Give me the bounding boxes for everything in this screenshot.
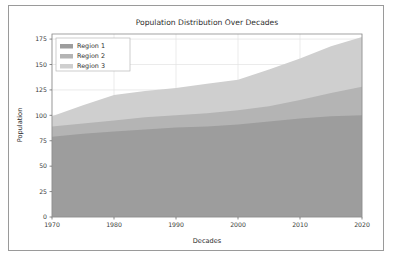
legend-swatch (60, 64, 73, 69)
y-axis-title: Population (16, 108, 24, 143)
legend-swatch (60, 44, 73, 49)
x-tick-label: 1980 (106, 221, 122, 228)
x-tick-label: 2000 (230, 221, 246, 228)
x-axis-tick-labels: 197019801990200020102020 (44, 221, 370, 228)
x-axis-title: Decades (193, 237, 222, 245)
y-tick-label: 25 (39, 188, 47, 195)
x-tick-label: 2010 (292, 221, 308, 228)
y-tick-label: 0 (43, 213, 47, 220)
y-tick-label: 100 (35, 112, 47, 119)
legend-label: Region 3 (77, 62, 105, 70)
x-tick-label: 1970 (44, 221, 60, 228)
y-tick-label: 50 (39, 162, 47, 169)
legend-label: Region 2 (77, 52, 105, 60)
chart-title: Population Distribution Over Decades (136, 18, 279, 27)
stacked-area-chart: 0255075100125150175 19701980199020002010… (0, 0, 394, 262)
y-tick-label: 175 (35, 35, 47, 42)
y-tick-label: 75 (39, 137, 47, 144)
legend-entry-list: Region 1Region 2Region 3 (60, 42, 105, 70)
x-tick-label: 1990 (168, 221, 184, 228)
x-tick-label: 2020 (354, 221, 370, 228)
y-tick-label: 150 (35, 61, 47, 68)
figure-canvas: 0255075100125150175 19701980199020002010… (0, 0, 394, 262)
chart-legend[interactable]: Region 1Region 2Region 3 (56, 38, 130, 71)
y-tick-label: 125 (35, 86, 47, 93)
y-axis-tick-labels: 0255075100125150175 (35, 35, 47, 220)
legend-swatch (60, 54, 73, 59)
legend-label: Region 1 (77, 42, 105, 50)
